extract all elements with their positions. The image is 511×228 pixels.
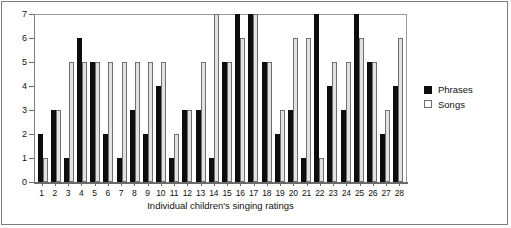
x-axis-tick-label: 5: [88, 186, 101, 200]
bar-group: [299, 15, 312, 182]
bar-group: [76, 15, 89, 182]
bar-group: [313, 15, 326, 182]
x-axis-tick: [161, 182, 162, 186]
x-axis-tick: [42, 182, 43, 186]
x-axis-tick-label: 2: [48, 186, 61, 200]
x-axis-tick-label: 8: [128, 186, 141, 200]
x-axis-tick: [174, 182, 175, 186]
x-axis-tick: [320, 182, 321, 186]
x-axis-tick: [187, 182, 188, 186]
x-axis-tick-label: 19: [274, 186, 287, 200]
bar-songs-10: [161, 62, 166, 182]
x-axis-tick: [55, 182, 56, 186]
y-axis-tick-label: 5: [22, 58, 27, 67]
x-axis-tick: [240, 182, 241, 186]
x-axis-title: Individual children's singing ratings: [34, 200, 407, 211]
bar-songs-13: [201, 62, 206, 182]
x-axis-tick: [227, 182, 228, 186]
legend-item-songs: Songs: [424, 100, 473, 110]
x-axis-tick-label: 16: [234, 186, 247, 200]
x-axis-tick-label: 14: [207, 186, 220, 200]
bar-group: [392, 15, 405, 182]
bar-songs-9: [148, 62, 153, 182]
bar-group: [207, 15, 220, 182]
x-axis-tick-label: 17: [247, 186, 260, 200]
plot-area: [34, 14, 407, 182]
bar-group: [115, 15, 128, 182]
x-axis-tick-label: 6: [101, 186, 114, 200]
x-axis-tick-label: 9: [141, 186, 154, 200]
x-axis-tick: [267, 182, 268, 186]
x-axis-tick-labels: 1234567891011121314151617181920212223242…: [34, 186, 407, 200]
y-axis-tick-label: 3: [22, 106, 27, 115]
bar-songs-20: [293, 38, 298, 182]
bar-songs-27: [385, 110, 390, 182]
x-axis-tick: [68, 182, 69, 186]
bar-songs-18: [267, 62, 272, 182]
y-axis-tick-label: 1: [22, 154, 27, 163]
bar-songs-11: [174, 134, 179, 182]
legend-label-songs: Songs: [438, 100, 465, 110]
y-axis-tick-label: 0: [22, 178, 27, 187]
bar-songs-25: [359, 38, 364, 182]
bar-group: [36, 15, 49, 182]
x-axis-tick: [214, 182, 215, 186]
bar-group: [194, 15, 207, 182]
x-axis-tick: [134, 182, 135, 186]
bar-songs-16: [240, 38, 245, 182]
x-axis-tick: [95, 182, 96, 186]
bar-songs-8: [135, 62, 140, 182]
x-axis-tick: [293, 182, 294, 186]
bar-group: [273, 15, 286, 182]
bar-group: [155, 15, 168, 182]
bar-group: [365, 15, 378, 182]
bar-songs-21: [306, 38, 311, 182]
bar-groups: [35, 15, 406, 182]
x-axis-tick-label: 4: [75, 186, 88, 200]
y-axis-tick-label: 7: [22, 10, 27, 19]
bar-songs-22: [319, 158, 324, 182]
x-axis-tick-label: 20: [287, 186, 300, 200]
bar-group: [168, 15, 181, 182]
x-axis-tick: [121, 182, 122, 186]
x-axis-tick-label: 21: [300, 186, 313, 200]
bar-group: [247, 15, 260, 182]
bar-group: [141, 15, 154, 182]
legend-label-phrases: Phrases: [438, 85, 473, 95]
x-axis-tick: [346, 182, 347, 186]
bar-group: [181, 15, 194, 182]
x-axis-tick-label: 22: [313, 186, 326, 200]
bar-group: [286, 15, 299, 182]
legend-swatch-songs: [424, 100, 432, 108]
x-axis-tick: [280, 182, 281, 186]
x-axis-tick: [307, 182, 308, 186]
x-axis-tick: [81, 182, 82, 186]
bar-songs-26: [372, 62, 377, 182]
chart-figure: 01234567 1234567891011121314151617181920…: [0, 0, 511, 228]
bar-group: [326, 15, 339, 182]
x-axis-tick-label: 26: [366, 186, 379, 200]
x-axis-tick: [108, 182, 109, 186]
x-axis-tick-label: 25: [353, 186, 366, 200]
bar-songs-17: [253, 14, 258, 182]
x-axis-tick-label: 13: [194, 186, 207, 200]
x-axis-tick-label: 27: [380, 186, 393, 200]
legend-item-phrases: Phrases: [424, 85, 473, 95]
x-axis-tick: [373, 182, 374, 186]
bar-group: [89, 15, 102, 182]
x-axis-tick: [360, 182, 361, 186]
bar-group: [352, 15, 365, 182]
bar-group: [339, 15, 352, 182]
bar-group: [62, 15, 75, 182]
x-axis-tick: [386, 182, 387, 186]
x-axis-tick-label: 18: [260, 186, 273, 200]
x-axis-tick: [333, 182, 334, 186]
bar-songs-4: [82, 62, 87, 182]
chart-legend: Phrases Songs: [424, 85, 473, 109]
bar-songs-19: [280, 110, 285, 182]
bar-group: [220, 15, 233, 182]
bar-group: [102, 15, 115, 182]
x-axis-tick-label: 28: [393, 186, 406, 200]
x-axis-tick-label: 10: [154, 186, 167, 200]
x-axis-line: [34, 182, 408, 184]
